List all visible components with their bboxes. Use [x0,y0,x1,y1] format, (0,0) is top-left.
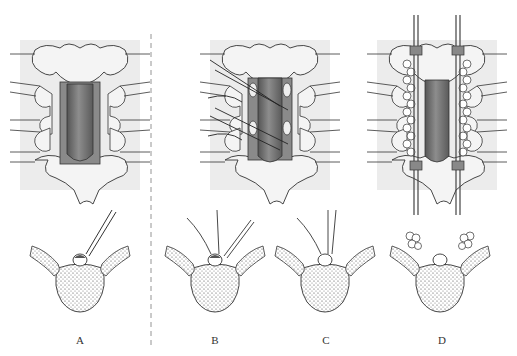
panel-label-b: B [205,334,225,346]
panel-b-posterior-view [200,40,340,204]
panel-d-cross-section [390,232,490,312]
spine-surgery-diagram [0,0,517,356]
panel-label-d: D [432,334,452,346]
panel-a-posterior-view [10,40,150,204]
panel-c-cross-section [275,210,375,312]
panel-a-cross-section [30,210,130,312]
panel-d-posterior-view-instrumented [367,15,507,215]
panel-b-cross-section [165,210,265,312]
panel-label-a: A [70,334,90,346]
panel-label-c: C [316,334,336,346]
